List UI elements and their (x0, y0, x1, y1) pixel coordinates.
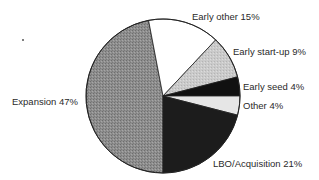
label-early-startup: Early start-up 9% (233, 47, 306, 57)
label-expansion: Expansion 47% (12, 97, 78, 107)
slice-expansion (86, 20, 163, 173)
label-early-seed: Early seed 4% (243, 82, 304, 92)
label-other: Other 4% (243, 101, 283, 111)
label-early-other: Early other 15% (192, 12, 260, 22)
label-lbo-acquisition: LBO/Acquisition 21% (213, 159, 302, 169)
pie-slices (86, 19, 240, 173)
stray-dot (22, 39, 24, 41)
